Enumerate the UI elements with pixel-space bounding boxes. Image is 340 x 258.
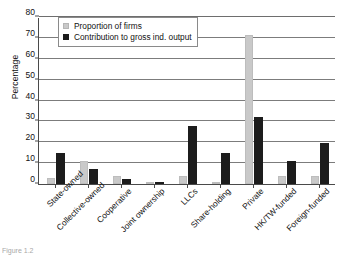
bar [221,153,230,184]
y-axis-tick-mark [35,16,39,17]
legend-item-contribution-to-gross-ind-output: Contribution to gross ind. output [63,32,192,42]
black-swatch-icon [63,34,69,40]
y-axis-tick-label: 50 [26,70,35,80]
bar-chart-figure: Percentage 01020304050607080 Proportion … [0,0,340,258]
y-axis-tick-label: 40 [26,91,35,101]
y-axis-tick-label: 20 [26,132,35,142]
y-axis-title: Percentage [10,31,20,123]
y-axis-tick-label: 30 [26,111,35,121]
bar [320,143,329,184]
bar [278,176,287,184]
bar-group [237,18,270,184]
bar [155,182,164,184]
bar [212,182,221,184]
bar [47,178,56,184]
y-axis-tick-label: 10 [26,153,35,163]
bar [56,153,65,184]
bar-group [270,18,303,184]
bar [113,176,122,184]
legend-item-label: Contribution to gross ind. output [74,32,192,42]
chart-legend: Proportion of firms Contribution to gros… [58,17,198,47]
bar [146,182,155,184]
bar [179,176,188,184]
bar-group [303,18,336,184]
legend-item-label: Proportion of firms [74,21,142,31]
y-axis-tick-label: 60 [26,49,35,59]
x-axis-tick-labels: State-ownedCollective-ownedCooperativeJo… [38,186,335,244]
bar [188,126,197,184]
bar [122,179,131,184]
bar [287,161,296,184]
figure-caption: Figure 1.2 [2,247,122,255]
bar [245,35,254,184]
y-axis-tick-label: 80 [26,7,35,17]
bar [311,176,320,184]
x-axis-tick-label: State-owned [45,186,68,209]
y-axis-tick-label: 70 [26,28,35,38]
bar [254,117,263,184]
legend-item-proportion-of-firms: Proportion of firms [63,21,192,31]
light-gray-swatch-icon [63,23,69,29]
bar-group [204,18,237,184]
